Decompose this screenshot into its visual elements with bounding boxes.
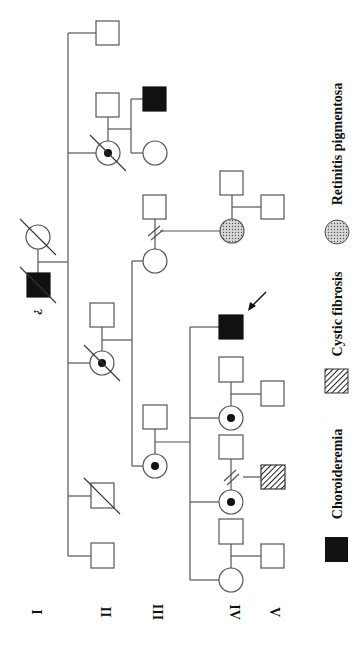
individual-rp-child	[261, 195, 284, 219]
individual-IV-4-proband	[219, 315, 243, 339]
gen-label-I: I	[29, 609, 44, 614]
legend-retinitis-label: Retinitis pigmentosa	[330, 83, 345, 206]
generation-II	[68, 21, 167, 568]
gen-label-IV: IV	[227, 604, 242, 620]
individual-III-2-spouse	[143, 195, 166, 219]
individual-II-3-spouse	[96, 93, 119, 117]
individual-IV-2-spouse	[219, 435, 243, 459]
individual-III-3	[143, 87, 166, 111]
legend-choroideremia-label: Choroideremia	[330, 429, 345, 519]
individual-III-1	[143, 454, 167, 478]
individual-IV-3-spouse	[219, 357, 243, 382]
pedigree-chart: ?	[0, 0, 362, 668]
individual-II-1	[96, 21, 119, 45]
generation-IV	[190, 292, 285, 592]
individual-III-2	[143, 249, 167, 273]
individual-IV-3	[219, 406, 243, 430]
legend-cystic-fibrosis-label: Cystic fibrosis	[330, 271, 345, 356]
legend-cystic-fibrosis-swatch	[325, 369, 348, 393]
generation-labels: I II III IV V	[29, 604, 282, 620]
individual-rp-spouse	[220, 171, 243, 195]
gen-label-III: III	[150, 604, 165, 620]
individual-II-4-spouse	[90, 303, 114, 327]
individual-V-2-cf	[261, 465, 285, 489]
carrier-dot-icon	[151, 462, 159, 470]
legend: Choroideremia Cystic fibrosis Retinitis …	[325, 83, 349, 562]
divorce-mark-icon	[224, 470, 236, 481]
generation-I: ?	[20, 219, 68, 315]
proband-arrow-icon	[248, 292, 266, 311]
gen-label-II: II	[98, 607, 113, 618]
individual-IV-1-spouse	[219, 519, 243, 544]
unknown-marker: ?	[31, 309, 46, 316]
individual-III-4	[143, 141, 167, 165]
legend-choroideremia-swatch	[325, 537, 348, 562]
individual-IV-1	[219, 568, 243, 592]
individual-IV-2	[219, 490, 243, 514]
generation-III	[132, 171, 284, 478]
individual-V-1	[261, 544, 284, 568]
individual-III-2-child-rp	[220, 219, 244, 243]
individual-V-3	[261, 381, 284, 406]
gen-label-V: V	[267, 607, 282, 617]
carrier-dot-icon	[227, 498, 235, 506]
individual-III-1-spouse	[143, 405, 167, 429]
individual-II-5	[91, 543, 114, 568]
carrier-dot-icon	[227, 414, 235, 422]
legend-retinitis-swatch	[325, 220, 349, 244]
